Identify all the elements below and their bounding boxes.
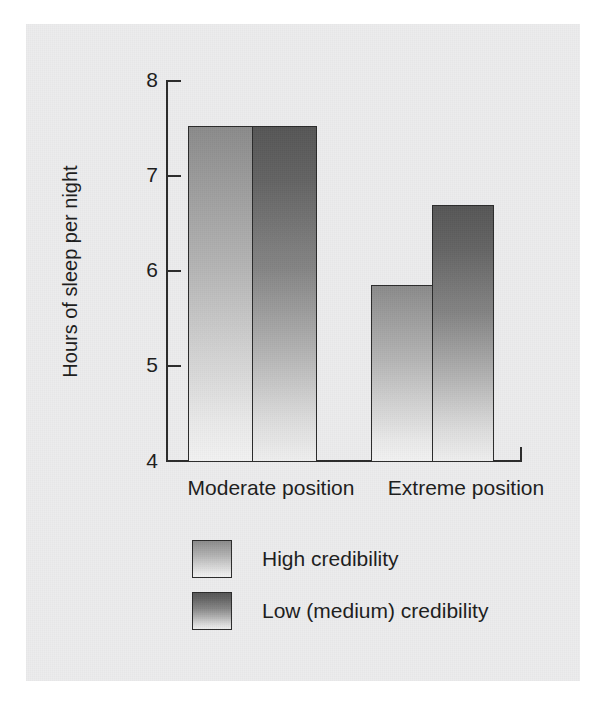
figure-container: 8 7 6 5 4 Hours of sleep per night (0, 0, 606, 707)
bar-moderate-low-credibility (252, 126, 317, 462)
y-tick-label-8: 8 (128, 69, 158, 90)
bar-moderate-high-credibility (188, 126, 253, 462)
legend-item-high-credibility: High credibility (192, 536, 488, 582)
bar-extreme-high-credibility (371, 285, 433, 462)
legend-label-low-credibility: Low (medium) credibility (262, 599, 488, 623)
y-tick-7 (168, 175, 181, 177)
bar-extreme-low-credibility (432, 205, 494, 462)
chart-panel: 8 7 6 5 4 Hours of sleep per night (26, 24, 580, 681)
y-tick-label-5: 5 (128, 354, 158, 375)
y-tick-label-7: 7 (128, 164, 158, 185)
legend-swatch-high-credibility (192, 540, 232, 578)
y-tick-label-4: 4 (128, 450, 158, 471)
legend-label-high-credibility: High credibility (262, 547, 399, 571)
category-label-extreme-position: Extreme position (356, 476, 576, 500)
legend-swatch-low-credibility (192, 592, 232, 630)
legend-item-low-credibility: Low (medium) credibility (192, 588, 488, 634)
y-tick-5 (168, 365, 181, 367)
y-tick-8 (168, 80, 181, 82)
x-axis-end-tick (520, 447, 522, 461)
plot-area: 8 7 6 5 4 Hours of sleep per night (26, 24, 580, 681)
y-tick-label-6: 6 (128, 259, 158, 280)
y-tick-6 (168, 270, 181, 272)
legend: High credibility Low (medium) credibilit… (192, 536, 488, 640)
y-axis-title: Hours of sleep per night (59, 142, 82, 402)
